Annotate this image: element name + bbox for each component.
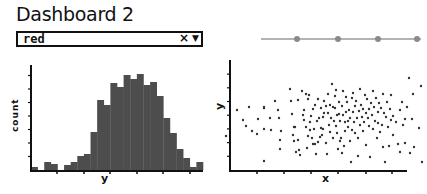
- scatter-point: [336, 132, 338, 134]
- scatter-point: [343, 145, 345, 147]
- scatter-point: [370, 102, 372, 104]
- scatter-point: [292, 134, 294, 136]
- scatter-point: [371, 114, 373, 116]
- scatter-point: [360, 104, 362, 106]
- slider-handle[interactable]: [414, 36, 420, 42]
- scatter-point: [386, 101, 388, 103]
- scatter-point: [303, 119, 305, 121]
- scatter-point: [382, 146, 384, 148]
- scatter-point: [311, 137, 313, 139]
- histogram-bar: [183, 158, 190, 170]
- scatter-y-label: y: [213, 103, 226, 110]
- scatter-point: [395, 121, 397, 123]
- histogram-bar: [31, 167, 38, 170]
- scatter-point: [263, 128, 265, 130]
- range-slider[interactable]: [261, 31, 423, 47]
- scatter-point: [358, 110, 360, 112]
- histogram-bar: [137, 74, 144, 170]
- scatter-point: [397, 143, 399, 145]
- scatter-point: [367, 117, 369, 119]
- scatter-point: [279, 148, 281, 150]
- scatter-point: [406, 106, 408, 108]
- histogram-bar: [64, 165, 71, 170]
- scatter-point: [347, 120, 349, 122]
- scatter-point: [338, 113, 340, 115]
- scatter-point: [374, 120, 376, 122]
- histogram-bar: [77, 156, 84, 170]
- scatter-point: [248, 106, 250, 108]
- scatter-point: [307, 135, 309, 137]
- scatter-point: [339, 120, 341, 122]
- histogram-x-label: y: [101, 172, 108, 185]
- histogram-bar: [104, 105, 111, 170]
- scatter-point: [323, 112, 325, 114]
- scatter-point: [331, 83, 333, 85]
- scatter-point: [289, 88, 291, 90]
- scatter-point: [309, 121, 311, 123]
- scatter-point: [385, 116, 387, 118]
- scatter-point: [344, 130, 346, 132]
- scatter-point: [320, 107, 322, 109]
- scatter-point: [325, 105, 327, 107]
- scatter-point: [382, 93, 384, 95]
- scatter-point: [368, 125, 370, 127]
- scatter-point: [274, 100, 276, 102]
- scatter-point: [334, 107, 336, 109]
- scatter-point: [291, 113, 293, 115]
- scatter-point: [308, 94, 310, 96]
- histogram-bar: [177, 149, 184, 170]
- slider-label: [217, 33, 257, 43]
- scatter-point: [337, 148, 339, 150]
- scatter-point: [325, 142, 327, 144]
- scatter-point: [333, 120, 335, 122]
- scatter-point: [317, 98, 319, 100]
- histogram-bar: [150, 82, 157, 170]
- scatter-point: [257, 118, 259, 120]
- scatter-point: [280, 130, 282, 132]
- scatter-point: [357, 155, 359, 157]
- scatter-point: [310, 115, 312, 117]
- histogram-bar: [170, 133, 177, 170]
- scatter-point: [309, 129, 311, 131]
- slider-track[interactable]: [261, 31, 423, 47]
- scatter-point: [359, 124, 361, 126]
- scatter-point: [290, 100, 292, 102]
- scatter-point: [242, 119, 244, 121]
- scatter-point: [362, 130, 364, 132]
- clear-icon[interactable]: ×: [179, 31, 189, 45]
- scatter-point: [335, 89, 337, 91]
- scatter-point: [412, 93, 414, 95]
- scatter-point: [294, 126, 296, 128]
- scatter-point: [349, 140, 351, 142]
- color-select-dropdown[interactable]: red × ▼: [16, 31, 203, 47]
- scatter-point: [278, 117, 280, 119]
- scatter-point: [342, 114, 344, 116]
- chevron-down-icon[interactable]: ▼: [192, 33, 199, 43]
- scatter-point: [383, 112, 385, 114]
- slider-tick[interactable]: [335, 36, 341, 42]
- scatter-point: [392, 115, 394, 117]
- scatter-point: [312, 108, 314, 110]
- scatter-point: [322, 116, 324, 118]
- scatter-point: [377, 122, 379, 124]
- scatter-point: [277, 109, 279, 111]
- scatter-point: [348, 109, 350, 111]
- scatter-point: [411, 118, 413, 120]
- scatter-point: [351, 97, 353, 99]
- scatter-point: [301, 90, 303, 92]
- scatter-point: [389, 108, 391, 110]
- scatter-point: [345, 111, 347, 113]
- scatter-point: [316, 120, 318, 122]
- slider-tick[interactable]: [375, 36, 381, 42]
- scatter-point: [355, 100, 357, 102]
- histogram-bar: [157, 96, 164, 170]
- scatter-point: [347, 126, 349, 128]
- scatter-point: [362, 108, 364, 110]
- slider-tick[interactable]: [294, 36, 300, 42]
- scatter-point: [372, 128, 374, 130]
- scatter-point: [330, 117, 332, 119]
- scatter-point: [377, 111, 379, 113]
- scatter-point: [408, 77, 410, 79]
- scatter-point: [305, 93, 307, 95]
- scatter-point: [299, 154, 301, 156]
